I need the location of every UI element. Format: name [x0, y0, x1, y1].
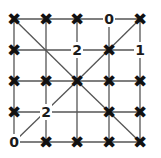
cross-mark-icon[interactable]: ✖: [6, 42, 22, 58]
cross-mark-icon[interactable]: ✖: [38, 73, 54, 89]
clue-number[interactable]: 0: [8, 134, 20, 150]
cross-mark-icon[interactable]: ✖: [101, 42, 117, 58]
cross-mark-icon[interactable]: ✖: [132, 134, 148, 150]
puzzle-board: ✖✖✖0✖✖2✖1✖✖✖✖✖✖2✖✖0✖✖✖✖: [0, 0, 161, 158]
clue-number[interactable]: 2: [40, 104, 52, 120]
cross-mark-icon[interactable]: ✖: [101, 104, 117, 120]
clue-number[interactable]: 2: [71, 42, 83, 58]
cross-mark-icon[interactable]: ✖: [132, 11, 148, 27]
cross-mark-icon[interactable]: ✖: [6, 104, 22, 120]
cross-mark-icon[interactable]: ✖: [6, 73, 22, 89]
cross-mark-icon[interactable]: ✖: [101, 73, 117, 89]
cross-mark-icon[interactable]: ✖: [101, 134, 117, 150]
cross-mark-icon[interactable]: ✖: [6, 11, 22, 27]
cross-mark-icon[interactable]: ✖: [38, 11, 54, 27]
cross-mark-icon[interactable]: ✖: [132, 104, 148, 120]
cross-mark-icon[interactable]: ✖: [69, 134, 85, 150]
clue-number[interactable]: 1: [134, 42, 146, 58]
cross-mark-icon[interactable]: ✖: [132, 73, 148, 89]
cross-mark-icon[interactable]: ✖: [69, 73, 85, 89]
cross-mark-icon[interactable]: ✖: [69, 11, 85, 27]
clue-number[interactable]: 0: [103, 11, 115, 27]
cross-mark-icon[interactable]: ✖: [38, 134, 54, 150]
